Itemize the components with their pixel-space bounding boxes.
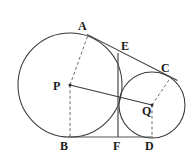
point-label-q: Q bbox=[142, 105, 151, 117]
radius-PA bbox=[70, 35, 88, 85]
radius-QC bbox=[152, 77, 171, 105]
segment-PQ bbox=[70, 85, 152, 105]
geometry-canvas bbox=[0, 0, 193, 157]
point-marker-P bbox=[69, 84, 72, 87]
point-label-d: D bbox=[145, 140, 154, 152]
point-label-c: C bbox=[161, 62, 170, 74]
point-label-a: A bbox=[78, 20, 87, 32]
point-label-p: P bbox=[53, 80, 60, 92]
point-label-e: E bbox=[121, 40, 129, 52]
point-label-f: F bbox=[113, 140, 120, 152]
geometry-figure: A E C P Q B F D bbox=[0, 0, 193, 157]
point-label-b: B bbox=[60, 140, 68, 152]
